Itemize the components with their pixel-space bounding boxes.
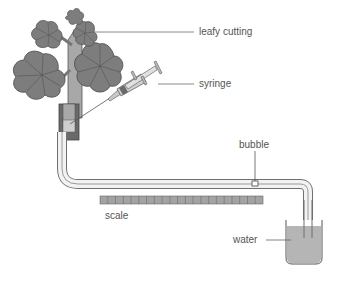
bud-icon [65,8,83,24]
capillary-tube [62,132,308,258]
water-beaker [286,200,322,264]
scale-bar [100,196,263,204]
leafy-cutting-label: leafy cutting [199,27,252,37]
bubble-label: bubble [239,140,269,150]
air-bubble [252,181,258,186]
leafy-cutting [13,8,123,118]
syringe-label: syringe [199,79,231,89]
leaf-icon [13,51,65,99]
potometer-diagram [0,0,337,281]
leaf-icon [73,21,97,46]
water-label: water [233,235,257,245]
leaf-icon [32,20,63,48]
scale-label: scale [105,211,128,221]
